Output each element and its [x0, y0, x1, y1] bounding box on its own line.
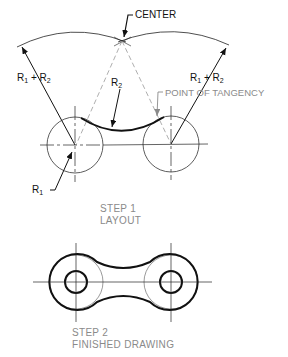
arc-left-r1-plus-r2	[17, 32, 126, 47]
step1-subtitle: LAYOUT	[100, 215, 141, 227]
step1-caption: STEP 1 LAYOUT	[100, 203, 141, 227]
construction-line-left	[76, 41, 122, 145]
step2-title: STEP 2	[72, 327, 174, 339]
tangent-arc-construction-diagram	[0, 0, 288, 357]
arc-right-r1-plus-r2	[118, 32, 229, 45]
r1-plus-r2-left-label: R1 + R2	[17, 73, 51, 84]
point-of-tangency-label: POINT OF TANGENCY	[165, 88, 264, 98]
r2-label: R2	[111, 78, 122, 89]
step2-finished-drawing	[33, 243, 212, 322]
r1-plus-r2-right-label: R1 + R2	[190, 73, 224, 84]
r1-label: R1	[32, 185, 43, 196]
center-leader	[124, 15, 133, 37]
step1-layout	[17, 15, 229, 190]
center-label: CENTER	[135, 10, 176, 20]
tangent-arc	[81, 117, 164, 131]
step1-title: STEP 1	[100, 203, 141, 215]
step2-caption: STEP 2 FINISHED DRAWING	[72, 327, 174, 351]
step2-subtitle: FINISHED DRAWING	[72, 339, 174, 351]
construction-line-right	[122, 41, 171, 144]
